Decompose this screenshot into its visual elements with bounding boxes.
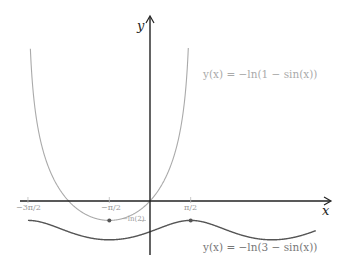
chart-canvas (0, 0, 343, 271)
fn1-label: y(x) = −ln(1 − sin(x)) (203, 68, 317, 80)
y-axis-label: y (137, 18, 144, 33)
curve-neg-ln-1-minus-sin (30, 48, 188, 220)
curve-neg-ln-3-minus-sin (28, 220, 316, 239)
tick-label-neg-3pi-2: −3π/2 (16, 203, 41, 212)
neg-ln2-label: −ln(2) (122, 215, 145, 223)
tick-label-neg-pi-2: −π/2 (101, 203, 121, 212)
x-axis-label: x (322, 203, 329, 218)
marked-point (107, 218, 111, 222)
marked-point (189, 218, 193, 222)
tick-label-pi-2: π/2 (184, 203, 197, 212)
fn2-label: y(x) = −ln(3 − sin(x)) (203, 241, 317, 253)
